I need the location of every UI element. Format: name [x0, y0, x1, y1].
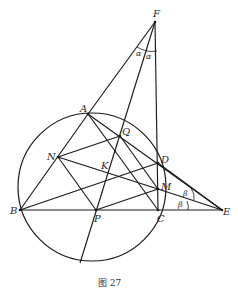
point-M	[157, 188, 160, 191]
point-B	[19, 209, 22, 212]
points	[19, 21, 224, 212]
point-D	[157, 162, 160, 165]
point-N	[57, 156, 60, 159]
label-D: D	[160, 154, 169, 165]
segment-PM	[96, 189, 158, 210]
segment-FC	[155, 22, 158, 210]
label-K: K	[100, 160, 109, 171]
label-Q: Q	[122, 126, 130, 137]
label-A: A	[79, 103, 87, 114]
figure-caption: 图 27	[98, 278, 122, 288]
label-C: C	[157, 213, 165, 224]
label-P: P	[93, 213, 101, 224]
label-N: N	[46, 151, 57, 162]
segments	[20, 22, 222, 263]
circle	[18, 113, 166, 261]
segment-NE	[158, 189, 222, 210]
point-Q	[119, 135, 122, 138]
label-beta-upper: β	[182, 189, 188, 198]
label-alpha-left: α	[136, 49, 142, 58]
segment-FA	[88, 22, 155, 114]
label-beta-lower: β	[177, 200, 183, 209]
point-C	[157, 209, 160, 212]
segment-NP	[58, 157, 96, 210]
segment-A-B	[20, 114, 88, 210]
label-B: B	[9, 205, 17, 216]
label-alpha-right: α	[146, 52, 152, 61]
segment-FQ-to-chord	[80, 22, 155, 263]
segment-NQ	[58, 136, 120, 157]
label-F: F	[152, 8, 161, 19]
label-M: M	[160, 181, 172, 192]
segment-BD	[20, 163, 158, 210]
point-P	[95, 209, 98, 212]
geometry-figure: F A Q N D K M B P C E α α β β 图 27	[0, 0, 238, 289]
label-E: E	[222, 206, 231, 217]
angle-arc-beta-lower	[187, 201, 188, 210]
point-F	[154, 21, 157, 24]
